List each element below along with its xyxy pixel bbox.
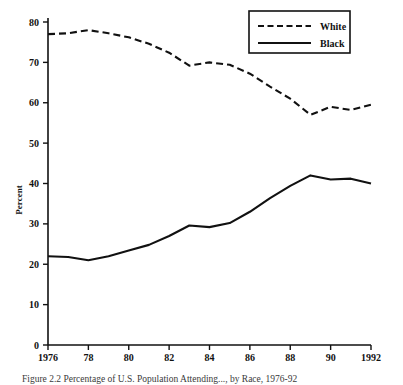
x-tick-label: 82 [164, 352, 174, 363]
x-tick-label: 84 [205, 352, 215, 363]
x-tick-label: 78 [83, 352, 93, 363]
y-tick-label: 10 [29, 299, 39, 310]
x-tick-label: 80 [124, 352, 134, 363]
y-tick-label: 0 [34, 340, 39, 351]
x-tick-label: 1976 [38, 352, 58, 363]
figure-caption: Figure 2.2 Percentage of U.S. Population… [22, 374, 392, 384]
y-axis-ticks: 01020304050607080 [29, 17, 48, 351]
x-axis-ticks: 1976788082848688901992 [38, 345, 381, 363]
chart-legend: WhiteBlack [249, 11, 350, 53]
x-tick-label: 90 [326, 352, 336, 363]
x-tick-label: 1992 [361, 352, 381, 363]
y-tick-label: 40 [29, 178, 39, 189]
line-chart: 01020304050607080 1976788082848688901992… [0, 0, 403, 385]
data-series-group [48, 30, 371, 260]
y-tick-label: 80 [29, 17, 39, 28]
chart-figure: 01020304050607080 1976788082848688901992… [0, 0, 403, 385]
y-tick-label: 20 [29, 259, 39, 270]
y-tick-label: 30 [29, 218, 39, 229]
x-tick-label: 86 [245, 352, 255, 363]
legend-label-white: White [320, 21, 347, 32]
y-tick-label: 50 [29, 138, 39, 149]
x-tick-label: 88 [285, 352, 295, 363]
y-axis-title: Percent [14, 185, 24, 214]
legend-label-black: Black [320, 38, 345, 49]
series-line-black [48, 175, 371, 260]
y-tick-label: 60 [29, 97, 39, 108]
y-tick-label: 70 [29, 57, 39, 68]
